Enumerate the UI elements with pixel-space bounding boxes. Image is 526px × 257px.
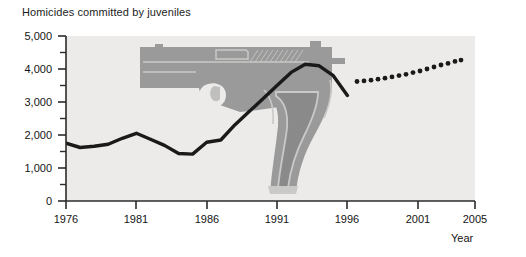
y-axis-minor-ticks [60, 53, 66, 185]
x-tick-label-1981: 1981 [108, 214, 164, 225]
x-axis-title: Year [451, 233, 473, 244]
y-tick-label-0: 0 [0, 196, 52, 207]
x-tick-label-1976: 1976 [38, 214, 94, 225]
y-tick-label-4000: 4,000 [0, 64, 52, 75]
x-tick-label-2001: 2001 [390, 214, 446, 225]
y-tick-label-5000: 5,000 [0, 31, 52, 42]
x-axis-ticks [66, 201, 475, 209]
chart-root: Homicides committed by juveniles [0, 0, 526, 257]
y-tick-label-1000: 1,000 [0, 163, 52, 174]
x-tick-label-1986: 1986 [179, 214, 235, 225]
x-tick-label-1996: 1996 [319, 214, 375, 225]
x-tick-label-2005: 2005 [447, 214, 503, 225]
y-tick-label-2000: 2,000 [0, 130, 52, 141]
x-tick-label-1991: 1991 [249, 214, 305, 225]
y-tick-label-3000: 3,000 [0, 97, 52, 108]
